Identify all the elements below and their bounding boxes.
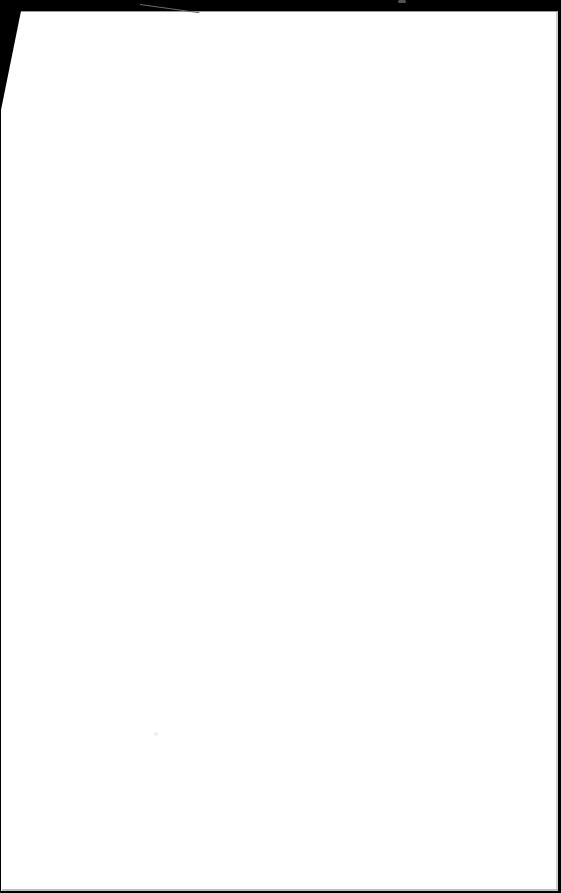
paper-speck [154,732,158,736]
photo-scene [0,0,561,893]
paper-right-edge [556,12,558,891]
blank-paper-sheet [0,0,561,893]
paper-bottom-edge [2,889,558,891]
paper-top-edge [21,11,558,12]
background-glint [398,0,406,3]
